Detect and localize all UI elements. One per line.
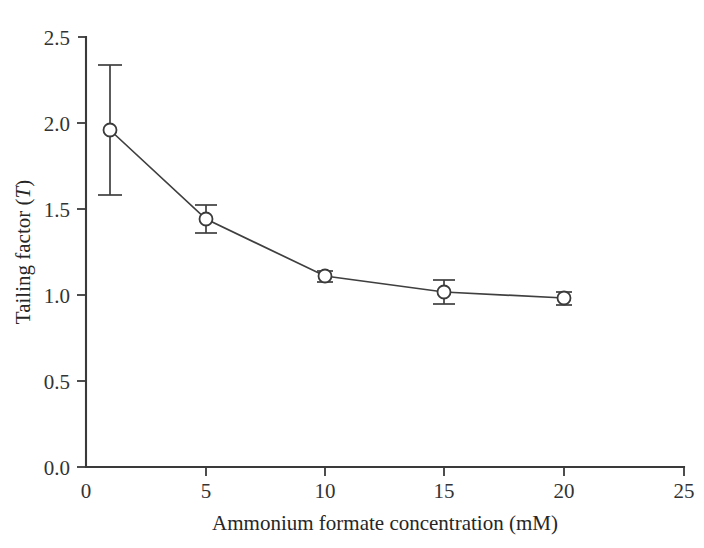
y-tick-label-1.5: 1.5 [44,198,70,222]
x-axis-title: Ammonium formate concentration (mM) [212,511,558,535]
x-tick-label-20: 20 [554,479,575,503]
y-tick-label-2.5: 2.5 [44,26,70,50]
x-axis-tick-labels: 0 5 10 15 20 25 [81,479,695,503]
y-axis-tick-labels: 2.5 2.0 1.5 1.0 0.5 0.0 [44,26,70,480]
y-tick-label-1.0: 1.0 [44,284,70,308]
data-point-marker [319,270,332,283]
y-tick-label-2.0: 2.0 [44,112,70,136]
x-tick-label-0: 0 [81,479,92,503]
svg-text:Tailing factor (T): Tailing factor (T) [11,180,35,324]
data-series-line [110,130,564,298]
data-point-marker [438,286,451,299]
x-tick-label-15: 15 [434,479,455,503]
axis-end-caps [78,37,684,476]
data-point-marker [558,292,571,305]
y-tick-label-0.0: 0.0 [44,456,70,480]
y-tick-label-0.5: 0.5 [44,370,70,394]
x-tick-label-5: 5 [201,479,212,503]
x-tick-label-10: 10 [315,479,336,503]
y-axis-ticks [77,123,86,467]
x-tick-label-25: 25 [674,479,695,503]
line-chart-plot: 2.5 2.0 1.5 1.0 0.5 0.0 0 5 10 15 20 25 … [0,0,704,548]
data-point-marker [200,213,213,226]
chart-figure: 2.5 2.0 1.5 1.0 0.5 0.0 0 5 10 15 20 25 … [0,0,704,548]
data-point-marker [104,124,117,137]
y-axis-title-suffix: ) [11,180,35,187]
y-axis-title-prefix: Tailing factor ( [11,199,35,325]
y-axis-title: Tailing factor (T) [11,180,35,324]
